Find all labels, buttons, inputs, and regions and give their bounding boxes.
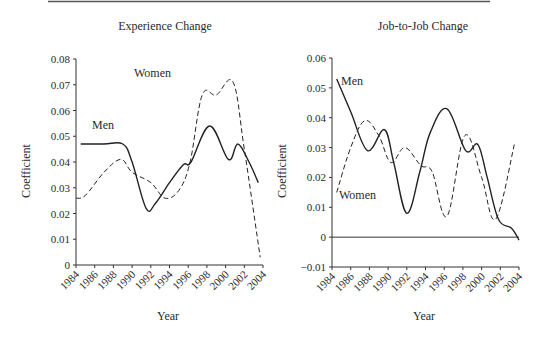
experience-change-chart: Experience Change 00.010.020.030.040.050… bbox=[19, 19, 269, 323]
y-tick-label: 0.03 bbox=[51, 182, 71, 194]
series-women-line bbox=[337, 120, 515, 220]
series-labels: MenWomen bbox=[339, 74, 376, 202]
y-tick-label: 0.01 bbox=[307, 201, 326, 213]
x-tick-label: 1998 bbox=[188, 268, 212, 292]
y-axis: −0.0100.010.020.030.040.050.06 bbox=[301, 52, 332, 273]
x-tick-label: 2002 bbox=[226, 268, 250, 292]
x-tick-label: 1994 bbox=[407, 270, 431, 294]
x-axis-title: Year bbox=[157, 309, 179, 323]
series-label-women: Women bbox=[339, 188, 376, 202]
chart-title: Experience Change bbox=[118, 19, 212, 33]
x-tick-label: 1988 bbox=[351, 270, 375, 294]
x-tick-label: 1994 bbox=[151, 268, 175, 292]
x-tick-label: 1990 bbox=[113, 268, 137, 292]
plot-lines bbox=[76, 80, 260, 258]
y-tick-label: 0.04 bbox=[307, 112, 327, 124]
x-tick-label: 1998 bbox=[444, 270, 468, 294]
x-tick-label: 1992 bbox=[388, 270, 412, 294]
series-labels: MenWomen bbox=[92, 66, 171, 132]
y-tick-label: 0.02 bbox=[307, 171, 326, 183]
y-tick-label: 0.05 bbox=[307, 82, 327, 94]
x-tick-label: 1986 bbox=[76, 268, 100, 292]
y-tick-label: 0.08 bbox=[51, 53, 71, 65]
x-tick-label: 1986 bbox=[332, 270, 356, 294]
y-axis: 00.010.020.030.040.050.060.070.08 bbox=[51, 53, 76, 271]
y-axis-title: Coefficient bbox=[19, 143, 33, 197]
x-axis-title: Year bbox=[413, 309, 435, 323]
series-label-men: Men bbox=[341, 74, 363, 88]
y-axis-title: Coefficient bbox=[275, 143, 289, 197]
y-tick-label: 0.07 bbox=[51, 79, 71, 91]
x-axis: 1984198619881990199219941996199820002002… bbox=[313, 267, 524, 294]
y-tick-label: 0.04 bbox=[51, 156, 71, 168]
job-to-job-change-chart: Job-to-Job Change −0.0100.010.020.030.04… bbox=[275, 19, 525, 323]
x-tick-label: 1984 bbox=[57, 268, 81, 292]
y-tick-label: 0 bbox=[321, 231, 327, 243]
plot-lines bbox=[337, 79, 519, 240]
x-tick-label: 2000 bbox=[463, 270, 487, 294]
series-label-men: Men bbox=[92, 118, 114, 132]
x-tick-label: 2000 bbox=[207, 268, 231, 292]
x-tick-label: 1996 bbox=[170, 268, 194, 292]
x-tick-label: 1992 bbox=[132, 268, 156, 292]
x-axis: 1984198619881990199219941996199820002002… bbox=[57, 265, 268, 292]
y-tick-label: −0.01 bbox=[301, 261, 326, 273]
x-tick-label: 1988 bbox=[95, 268, 119, 292]
y-tick-label: 0.01 bbox=[51, 233, 70, 245]
x-tick-label: 2004 bbox=[500, 270, 524, 294]
x-tick-label: 2002 bbox=[482, 270, 506, 294]
figure: Experience Change 00.010.020.030.040.050… bbox=[0, 0, 546, 339]
series-women-line bbox=[76, 80, 260, 258]
y-tick-label: 0.02 bbox=[51, 208, 70, 220]
y-tick-label: 0.03 bbox=[307, 142, 327, 154]
chart-title: Job-to-Job Change bbox=[378, 19, 468, 33]
y-tick-label: 0.06 bbox=[307, 52, 327, 64]
x-tick-label: 2004 bbox=[244, 268, 268, 292]
x-tick-label: 1996 bbox=[426, 270, 450, 294]
x-tick-label: 1990 bbox=[369, 270, 393, 294]
y-tick-label: 0.06 bbox=[51, 105, 71, 117]
y-tick-label: 0.05 bbox=[51, 130, 71, 142]
y-tick-label: 0 bbox=[65, 259, 71, 271]
series-label-women: Women bbox=[134, 66, 171, 80]
x-tick-label: 1984 bbox=[313, 270, 337, 294]
